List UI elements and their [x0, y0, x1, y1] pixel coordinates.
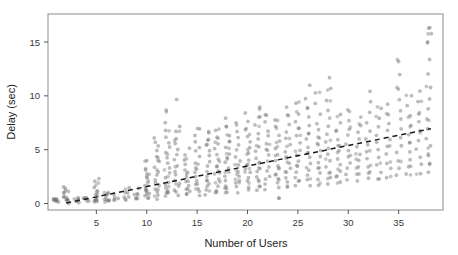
figure-background	[0, 0, 458, 255]
svg-text:0: 0	[35, 198, 40, 209]
svg-text:35: 35	[393, 217, 404, 228]
y-axis-title: Delay (sec)	[5, 84, 17, 140]
chart-canvas: 051015 5101520253035 Delay (sec) Number …	[0, 0, 458, 255]
svg-text:25: 25	[293, 217, 304, 228]
svg-text:15: 15	[192, 217, 203, 228]
svg-text:20: 20	[242, 217, 253, 228]
scatter-plot-figure: 051015 5101520253035 Delay (sec) Number …	[0, 0, 458, 255]
svg-text:5: 5	[94, 217, 99, 228]
svg-text:15: 15	[29, 37, 40, 48]
svg-text:10: 10	[29, 90, 40, 101]
x-axis-title: Number of Users	[204, 237, 288, 249]
svg-text:30: 30	[343, 217, 354, 228]
svg-text:5: 5	[35, 144, 40, 155]
svg-text:10: 10	[141, 217, 152, 228]
